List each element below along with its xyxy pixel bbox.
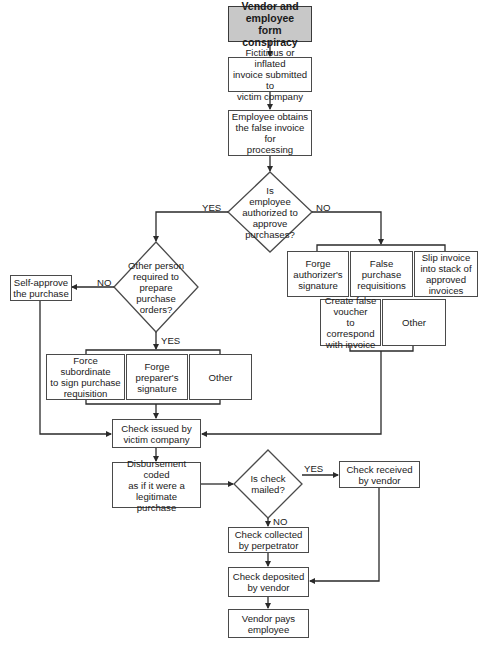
- step-check-collected: Check collected by perpetrator: [228, 527, 309, 553]
- decision-employee-authorized: Is employee authorized to approve purcha…: [232, 180, 308, 244]
- option-right-other: Other: [382, 299, 446, 346]
- start-node-conspiracy: Vendor and employee form conspiracy: [228, 6, 312, 42]
- step-invoice-submitted: Fictitious or inflated invoice submitted…: [228, 57, 312, 92]
- decision-check-mailed: Is check mailed?: [238, 468, 298, 500]
- option-forge-authorizer-signature: Forge authorizer's signature: [287, 251, 349, 297]
- edge-label-mailed-yes: YES: [304, 463, 323, 474]
- option-slip-invoice: Slip invoice into stack of approved invo…: [414, 251, 478, 297]
- option-force-subordinate: Force subordinate to sign purchase requi…: [46, 354, 125, 400]
- option-forge-preparer-signature: Forge preparer's signature: [126, 354, 188, 400]
- step-check-deposited: Check deposited by vendor: [228, 567, 309, 597]
- step-employee-obtains-invoice: Employee obtains the false invoice for p…: [228, 110, 312, 156]
- option-false-purchase-requisitions: False purchase requisitions: [350, 251, 413, 297]
- edge-label-mailed-no: NO: [273, 516, 287, 527]
- step-self-approve-purchase: Self-approve the purchase: [10, 275, 72, 301]
- step-check-received: Check received by vendor: [339, 461, 420, 488]
- decision-other-person-required: Other person required to prepare purchas…: [118, 256, 194, 318]
- flowchart-canvas: Vendor and employee form conspiracy Fict…: [0, 0, 490, 652]
- edge-label-other-person-yes: YES: [161, 335, 180, 346]
- step-disbursement-coded: Disbursement coded as if it were a legit…: [112, 462, 201, 508]
- edge-label-other-person-no: NO: [97, 277, 111, 288]
- end-node-vendor-pays: Vendor pays employee: [228, 609, 309, 638]
- step-check-issued: Check issued by victim company: [112, 419, 201, 448]
- option-create-false-voucher: Create false voucher to correspond with …: [320, 299, 381, 346]
- option-left-other: Other: [189, 354, 252, 400]
- edge-label-authorized-yes: YES: [202, 202, 221, 213]
- edge-label-authorized-no: NO: [316, 202, 330, 213]
